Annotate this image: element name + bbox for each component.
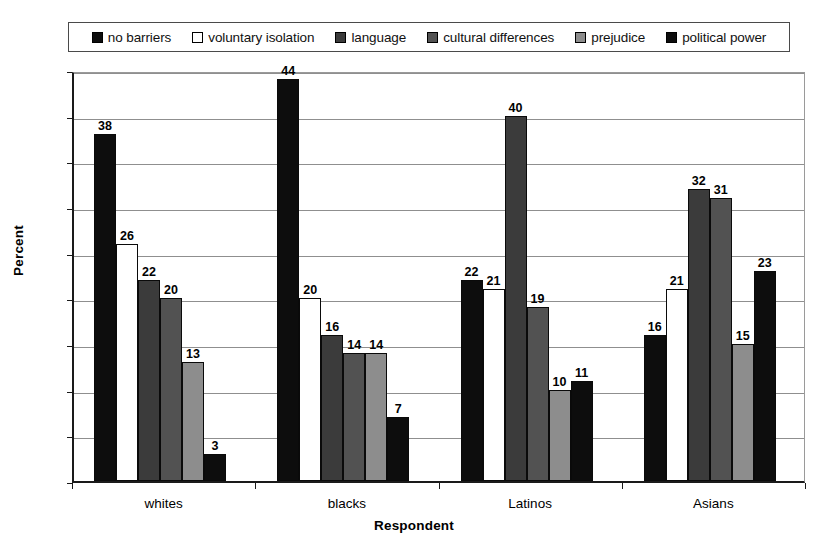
bar-slot: 3 bbox=[204, 73, 226, 481]
bar-value-label: 3 bbox=[212, 440, 219, 453]
bar-Asians-language[interactable]: 32 bbox=[688, 189, 710, 481]
bar-slot: 11 bbox=[571, 73, 593, 481]
bar-whites-cultural-differences[interactable]: 20 bbox=[160, 298, 182, 481]
legend-item-label: political power bbox=[682, 30, 766, 45]
bar-Latinos-no-barriers[interactable]: 22 bbox=[461, 280, 483, 481]
legend-swatch-icon bbox=[427, 32, 438, 43]
bar-slot: 14 bbox=[343, 73, 365, 481]
bar-blacks-prejudice[interactable]: 14 bbox=[365, 353, 387, 481]
bar-value-label: 21 bbox=[670, 275, 684, 288]
bar-blacks-voluntary-isolation[interactable]: 20 bbox=[299, 298, 321, 481]
bar-value-label: 20 bbox=[303, 284, 317, 297]
bar-Asians-political-power[interactable]: 23 bbox=[754, 271, 776, 481]
bar-whites-prejudice[interactable]: 13 bbox=[182, 362, 204, 481]
legend-item-cultural-differences[interactable]: cultural differences bbox=[427, 30, 554, 45]
bar-Asians-no-barriers[interactable]: 16 bbox=[644, 335, 666, 481]
bar-Asians-voluntary-isolation[interactable]: 21 bbox=[666, 289, 688, 481]
legend-item-label: voluntary isolation bbox=[208, 30, 314, 45]
x-tick-mark bbox=[622, 483, 623, 489]
bar-blacks-no-barriers[interactable]: 44 bbox=[277, 79, 299, 481]
bar-value-label: 31 bbox=[714, 184, 728, 197]
bar-value-label: 7 bbox=[395, 403, 402, 416]
bar-Latinos-cultural-differences[interactable]: 19 bbox=[527, 307, 549, 481]
bar-slot: 21 bbox=[483, 73, 505, 481]
bar-whites-language[interactable]: 22 bbox=[138, 280, 160, 481]
bar-slot: 31 bbox=[710, 73, 732, 481]
bar-group-Asians: 162132311523 bbox=[644, 73, 776, 481]
x-tick-label-Asians: Asians bbox=[693, 496, 734, 511]
bar-value-label: 38 bbox=[98, 120, 112, 133]
bar-Latinos-prejudice[interactable]: 10 bbox=[549, 390, 571, 481]
bar-group-whites: 38262220133 bbox=[94, 73, 226, 481]
bar-value-label: 14 bbox=[369, 339, 383, 352]
legend-item-label: cultural differences bbox=[443, 30, 554, 45]
bar-blacks-political-power[interactable]: 7 bbox=[387, 417, 409, 481]
bar-Latinos-political-power[interactable]: 11 bbox=[571, 381, 593, 481]
legend-item-prejudice[interactable]: prejudice bbox=[575, 30, 645, 45]
bar-slot: 15 bbox=[732, 73, 754, 481]
bar-value-label: 16 bbox=[325, 321, 339, 334]
bar-slot: 40 bbox=[505, 73, 527, 481]
bar-value-label: 14 bbox=[347, 339, 361, 352]
x-tick-mark bbox=[439, 483, 440, 489]
legend-item-political-power[interactable]: political power bbox=[666, 30, 766, 45]
bar-slot: 14 bbox=[365, 73, 387, 481]
bar-Latinos-language[interactable]: 40 bbox=[505, 116, 527, 481]
bar-value-label: 40 bbox=[509, 102, 523, 115]
bar-group-blacks: 44201614147 bbox=[277, 73, 409, 481]
bar-whites-political-power[interactable]: 3 bbox=[204, 454, 226, 481]
bar-slot: 16 bbox=[321, 73, 343, 481]
bar-blacks-cultural-differences[interactable]: 14 bbox=[343, 353, 365, 481]
legend-item-label: language bbox=[351, 30, 406, 45]
legend-item-label: prejudice bbox=[591, 30, 645, 45]
bar-Asians-prejudice[interactable]: 15 bbox=[732, 344, 754, 481]
bar-value-label: 16 bbox=[648, 321, 662, 334]
bar-slot: 21 bbox=[666, 73, 688, 481]
x-tick-mark bbox=[255, 483, 256, 489]
bar-value-label: 13 bbox=[186, 348, 200, 361]
bar-slot: 16 bbox=[644, 73, 666, 481]
bar-value-label: 22 bbox=[465, 266, 479, 279]
x-tick-mark bbox=[805, 483, 806, 489]
bar-value-label: 20 bbox=[164, 284, 178, 297]
bar-slot: 22 bbox=[138, 73, 160, 481]
bar-slot: 22 bbox=[461, 73, 483, 481]
bar-slot: 13 bbox=[182, 73, 204, 481]
bar-group-Latinos: 222140191011 bbox=[461, 73, 593, 481]
bar-value-label: 15 bbox=[736, 330, 750, 343]
bar-slot: 7 bbox=[387, 73, 409, 481]
bar-slot: 19 bbox=[527, 73, 549, 481]
bar-value-label: 23 bbox=[758, 257, 772, 270]
bar-value-label: 26 bbox=[120, 230, 134, 243]
legend-item-voluntary-isolation[interactable]: voluntary isolation bbox=[192, 30, 314, 45]
bar-slot: 20 bbox=[299, 73, 321, 481]
legend-swatch-icon bbox=[335, 32, 346, 43]
x-axis-title: Respondent bbox=[0, 518, 828, 533]
y-axis-title: Percent bbox=[11, 206, 26, 296]
y-axis: Percent 051015202530354045 bbox=[0, 0, 72, 535]
chart-legend: no barriersvoluntary isolationlanguagecu… bbox=[68, 22, 790, 52]
bar-slot: 32 bbox=[688, 73, 710, 481]
x-tick-label-blacks: blacks bbox=[328, 496, 366, 511]
bar-value-label: 19 bbox=[531, 293, 545, 306]
bar-Asians-cultural-differences[interactable]: 31 bbox=[710, 198, 732, 481]
bar-value-label: 21 bbox=[487, 275, 501, 288]
legend-swatch-icon bbox=[666, 32, 677, 43]
bar-Latinos-voluntary-isolation[interactable]: 21 bbox=[483, 289, 505, 481]
bar-whites-no-barriers[interactable]: 38 bbox=[94, 134, 116, 481]
legend-item-language[interactable]: language bbox=[335, 30, 406, 45]
bar-slot: 23 bbox=[754, 73, 776, 481]
legend-item-no-barriers[interactable]: no barriers bbox=[92, 30, 171, 45]
bar-slot: 26 bbox=[116, 73, 138, 481]
bar-whites-voluntary-isolation[interactable]: 26 bbox=[116, 244, 138, 481]
bar-value-label: 22 bbox=[142, 266, 156, 279]
bar-value-label: 10 bbox=[553, 376, 567, 389]
bar-blacks-language[interactable]: 16 bbox=[321, 335, 343, 481]
bar-slot: 10 bbox=[549, 73, 571, 481]
bar-value-label: 11 bbox=[575, 367, 588, 380]
x-tick-mark bbox=[72, 483, 73, 489]
bar-slot: 20 bbox=[160, 73, 182, 481]
bar-chart: no barriersvoluntary isolationlanguagecu… bbox=[0, 0, 828, 535]
legend-swatch-icon bbox=[92, 32, 103, 43]
legend-swatch-icon bbox=[192, 32, 203, 43]
